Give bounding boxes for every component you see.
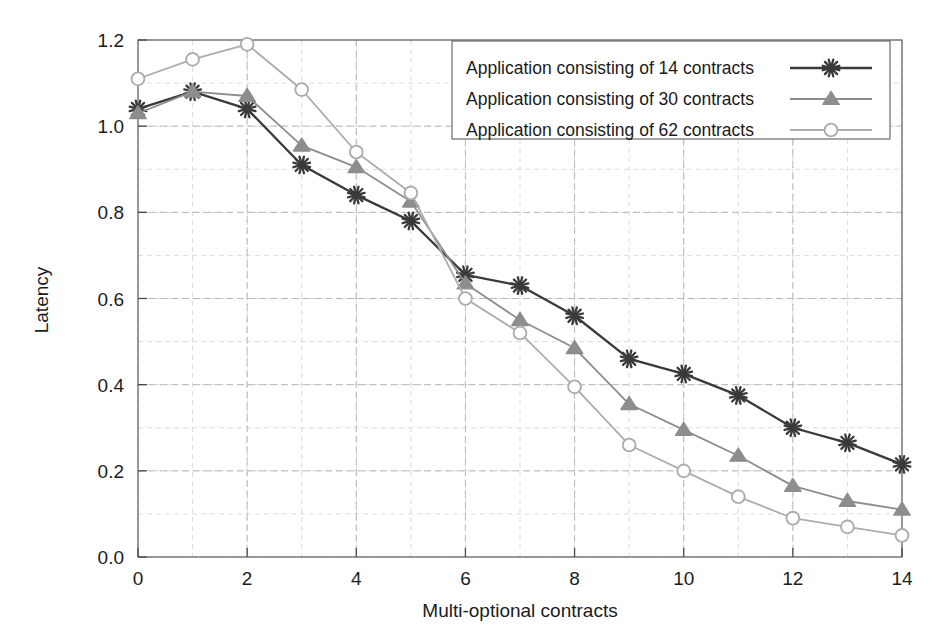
data-point-marker-circle <box>568 380 581 393</box>
chart-legend: Application consisting of 14 contractsAp… <box>452 41 890 140</box>
data-point-marker-circle <box>459 292 472 305</box>
y-tick-label: 1.0 <box>98 116 124 137</box>
data-point-marker-circle <box>295 83 308 96</box>
legend-label-2: Application consisting of 30 contracts <box>466 89 754 109</box>
x-tick-label: 4 <box>351 568 362 589</box>
y-tick-label: 1.2 <box>98 30 124 51</box>
chart-figure: 02468101214 0.00.20.40.60.81.01.2 Multi-… <box>0 0 943 643</box>
data-point-marker-circle <box>514 327 527 340</box>
data-point-marker-circle <box>825 124 838 137</box>
legend-label-1: Application consisting of 14 contracts <box>466 58 754 78</box>
data-point-marker-circle <box>841 520 854 533</box>
data-point-marker-circle <box>786 512 799 525</box>
data-point-marker-circle <box>350 146 363 159</box>
x-tick-label: 8 <box>569 568 580 589</box>
x-tick-label: 10 <box>673 568 694 589</box>
data-point-marker-circle <box>677 464 690 477</box>
y-axis-title: Latency <box>31 266 52 333</box>
latency-line-chart: 02468101214 0.00.20.40.60.81.01.2 Multi-… <box>0 0 943 643</box>
x-tick-label: 12 <box>782 568 803 589</box>
x-tick-label: 14 <box>891 568 913 589</box>
legend-label-3: Application consisting of 62 contracts <box>466 120 754 140</box>
data-point-marker-circle <box>623 439 636 452</box>
y-tick-label: 0.0 <box>98 547 124 568</box>
data-point-marker-circle <box>404 187 417 200</box>
data-point-marker-circle <box>732 490 745 503</box>
x-tick-label: 0 <box>133 568 144 589</box>
x-tick-label: 6 <box>460 568 471 589</box>
data-point-marker-circle <box>186 53 199 66</box>
y-tick-label: 0.4 <box>98 375 125 396</box>
y-tick-label: 0.2 <box>98 461 124 482</box>
data-point-marker-circle <box>241 38 254 51</box>
x-tick-label: 2 <box>242 568 253 589</box>
x-axis-title: Multi-optional contracts <box>422 600 617 621</box>
y-tick-label: 0.6 <box>98 289 124 310</box>
y-tick-label: 0.8 <box>98 202 124 223</box>
data-point-marker-circle <box>132 72 145 85</box>
data-point-marker-circle <box>896 529 909 542</box>
